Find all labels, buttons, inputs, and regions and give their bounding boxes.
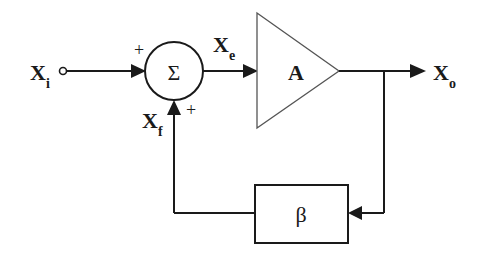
output-label: Xo [433,60,456,91]
feedback-arrow-icon [167,100,181,115]
error-label: Xe [213,32,235,63]
input-terminal [60,68,67,75]
feedback-label: Xf [142,108,163,139]
input-arrow-icon [131,64,146,78]
feedback-diagram: Xi + Σ Xe A Xo Xf + β [0,0,487,262]
input-label: Xi [30,60,50,91]
sigma-symbol: Σ [168,60,181,85]
amplifier-label: A [288,60,304,85]
beta-label: β [295,202,306,227]
output-arrow-icon [410,64,426,78]
beta-input-arrow-icon [348,206,362,220]
feedback-plus-sign: + [186,100,196,120]
error-arrow-icon [243,64,258,78]
input-plus-sign: + [134,40,144,60]
